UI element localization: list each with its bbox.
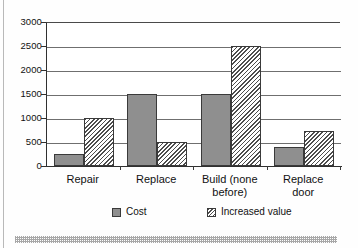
x-axis-category-label: Replacedoor (259, 173, 349, 199)
y-axis-tick-label: 2000 (2, 65, 42, 75)
plot-area (46, 22, 340, 166)
x-axis-tick-mark (340, 166, 341, 170)
legend-item-cost: Cost (112, 207, 147, 217)
chart-legend: Cost Increased value (0, 207, 358, 223)
y-axis-tick-label: 1000 (2, 113, 42, 123)
x-axis-tick-mark (267, 166, 268, 170)
bar-increased-value (304, 131, 334, 166)
x-axis-tick-mark (120, 166, 121, 170)
bar-group (47, 22, 121, 166)
y-axis-tick-label: 500 (2, 137, 42, 147)
legend-item-increased-value: Increased value (207, 207, 292, 217)
dithered-scan-band (15, 236, 337, 243)
bar-chart: 050010001500200025003000 RepairReplaceBu… (0, 0, 358, 248)
y-axis-tick-label: 2500 (2, 41, 42, 51)
bar-group (194, 22, 268, 166)
y-axis-tick-label: 1500 (2, 89, 42, 99)
bar-group (268, 22, 342, 166)
bar-cost (201, 94, 231, 166)
bar-cost (274, 147, 304, 166)
y-axis-tick-label: 0 (2, 161, 42, 171)
bar-cost (127, 94, 157, 166)
bar-group (121, 22, 195, 166)
bar-cost (54, 154, 84, 166)
category-label-line: Replace (259, 173, 349, 186)
x-axis-line (46, 166, 342, 167)
legend-label-cost: Cost (126, 207, 147, 217)
x-axis-tick-mark (193, 166, 194, 170)
chart-page: 050010001500200025003000 RepairReplaceBu… (0, 0, 358, 248)
category-label-line: door (259, 186, 349, 199)
hatched-swatch (207, 208, 216, 217)
bar-increased-value (157, 142, 187, 166)
y-axis-tick-label: 3000 (2, 17, 42, 27)
solid-gray-swatch (112, 208, 121, 217)
bar-increased-value (231, 46, 261, 166)
bar-increased-value (84, 118, 114, 166)
legend-label-increased-value: Increased value (221, 207, 292, 217)
